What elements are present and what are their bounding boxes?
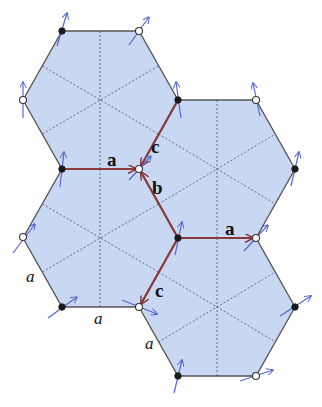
vertex-open [253,235,260,242]
vertex-filled [292,166,298,172]
vertex-filled [292,304,298,310]
vertex-open [253,97,260,104]
label-vector-b: b [152,177,163,198]
vertex-open [136,166,143,173]
vertex-open [253,373,260,380]
label-vector-c-lower: c [155,280,163,301]
honeycomb-diagram: a c b a c a a a [0,0,322,407]
vertex-filled [59,304,65,310]
vertex-filled [59,166,65,172]
vertex-open [136,28,143,35]
vertex-open [20,97,27,104]
label-length-lower-right-edge: a [145,334,154,353]
label-vector-a-lower: a [225,218,235,239]
vertex-filled [59,28,65,34]
vertex-filled [175,373,181,379]
label-vector-c-upper: c [151,136,159,157]
vertex-open [136,304,143,311]
vertex-open [20,234,27,241]
label-length-bottom-edge: a [94,309,103,328]
vertex-filled [175,235,181,241]
label-vector-a-upper: a [107,149,117,170]
label-length-left-edge: a [26,267,35,286]
vertex-filled [175,97,181,103]
